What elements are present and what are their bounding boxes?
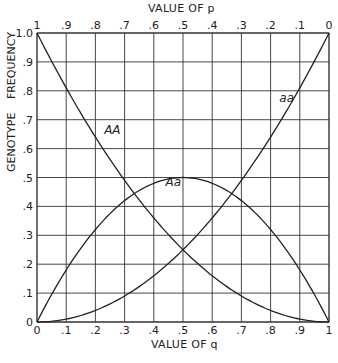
y-tick-label: .6: [23, 143, 34, 156]
x2-tick-label: .4: [207, 19, 218, 32]
y-tick-label: .2: [23, 258, 34, 271]
x2-tick-label: .9: [61, 19, 72, 32]
x2-tick-label: .8: [90, 19, 101, 32]
x-tick-label: .1: [61, 324, 72, 337]
x2-tick-label: .2: [265, 19, 276, 32]
y-axis-title: GENOTYPE FREQUENCY: [5, 32, 18, 172]
x-tick-label: .7: [236, 324, 247, 337]
y-tick-label: .7: [23, 114, 34, 127]
x-tick-label: 0: [34, 324, 41, 337]
y-tick-label: .8: [23, 85, 34, 98]
x2-tick-label: .1: [295, 19, 306, 32]
y-tick-label: .1: [23, 287, 34, 300]
x-tick-label: 1: [326, 324, 333, 337]
y-tick-label: 1.0: [16, 27, 34, 40]
x2-tick-label: .7: [119, 19, 130, 32]
x-tick-label: .9: [295, 324, 306, 337]
x2-tick-label: .5: [178, 19, 189, 32]
x-tick-label: .6: [207, 324, 218, 337]
x-tick-label: .2: [90, 324, 101, 337]
x-axis-title: VALUE OF q: [151, 338, 218, 351]
y-tick-label: .4: [23, 200, 34, 213]
label-Aa: Aa: [164, 175, 181, 189]
x-tick-label: .8: [265, 324, 276, 337]
x2-tick-label: .3: [236, 19, 247, 32]
y-tick-label: .9: [23, 56, 34, 69]
genotype-frequency-chart: 0.1.2.3.4.5.6.7.8.911.9.8.7.6.5.4.3.2.10…: [0, 0, 338, 363]
x2-tick-label: 1: [34, 19, 41, 32]
x-tick-label: .3: [119, 324, 130, 337]
x-tick-label: .5: [178, 324, 189, 337]
x2-tick-label: .6: [149, 19, 160, 32]
x2-axis-title: VALUE OF p: [148, 2, 215, 15]
y-tick-label: .5: [23, 172, 34, 185]
label-aa: aa: [279, 91, 294, 105]
x-tick-label: .4: [149, 324, 160, 337]
x2-tick-label: 0: [326, 19, 333, 32]
curve-labels: AAAaaa: [103, 91, 294, 189]
label-AA: AA: [103, 123, 120, 137]
y-tick-label: .3: [23, 229, 34, 242]
y-tick-label: 0: [26, 316, 33, 329]
